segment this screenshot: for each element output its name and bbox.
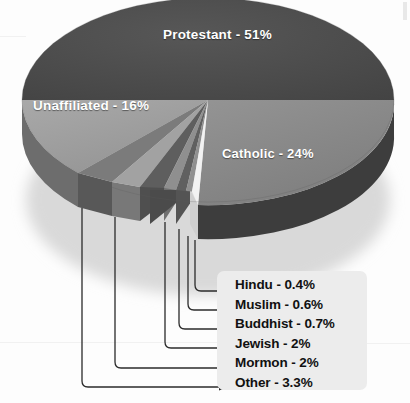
page-edge-artifact <box>403 2 407 20</box>
legend-item-other[interactable]: Other - 3.3% <box>235 373 375 393</box>
pie-label-unaffiliated: Unaffiliated - 16% <box>33 98 149 113</box>
legend-item-jewish[interactable]: Jewish - 2% <box>235 334 375 354</box>
pie-chart-figure: Hindu - 0.4% Muslim - 0.6% Buddhist - 0.… <box>0 0 410 403</box>
pie-label-catholic: Catholic - 24% <box>222 146 314 161</box>
legend-list: Hindu - 0.4% Muslim - 0.6% Buddhist - 0.… <box>235 275 375 392</box>
legend-item-buddhist[interactable]: Buddhist - 0.7% <box>235 314 375 334</box>
legend-item-hindu[interactable]: Hindu - 0.4% <box>235 275 375 295</box>
legend-item-mormon[interactable]: Mormon - 2% <box>235 353 375 373</box>
pie-slice-protestant[interactable] <box>22 0 394 100</box>
pie-label-protestant: Protestant - 51% <box>163 27 272 42</box>
legend-item-muslim[interactable]: Muslim - 0.6% <box>235 295 375 315</box>
